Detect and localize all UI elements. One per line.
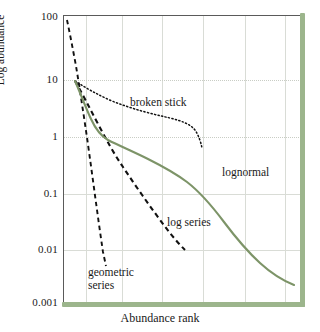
annotation-log-series: log series — [167, 216, 211, 229]
ytick-label: 1 — [52, 131, 58, 142]
frame-right-green — [300, 13, 305, 307]
series-curves — [0, 0, 320, 332]
y-axis-label: Log abundance — [0, 0, 6, 120]
curve-lognormal — [75, 81, 294, 285]
ytick-label: 0.1 — [44, 188, 58, 199]
x-axis-label: Abundance rank — [0, 311, 320, 326]
curve-geometric-series — [67, 20, 106, 266]
annotation-lognormal: lognormal — [222, 166, 269, 179]
ytick-label: 0.01 — [38, 244, 58, 255]
ytick-label: 0.001 — [32, 297, 58, 308]
frame-bottom-green — [62, 302, 305, 307]
ytick-label: 10 — [47, 74, 58, 85]
annotation-geometric-line2: series — [88, 279, 134, 292]
ytick-label: 100 — [41, 11, 58, 22]
rank-abundance-chart: 100 10 1 0.1 0.01 0.001 Log abundance Ab… — [0, 0, 320, 332]
annotation-geometric-line1: geometric — [88, 266, 134, 279]
annotation-geometric-series: geometric series — [88, 266, 134, 292]
annotation-broken-stick: broken stick — [130, 96, 187, 109]
